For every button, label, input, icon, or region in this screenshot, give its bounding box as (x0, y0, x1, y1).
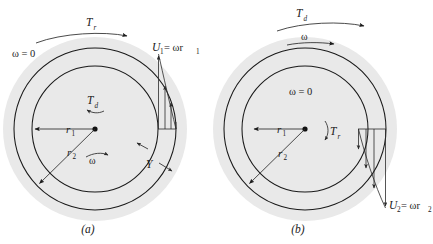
panel-a-r2-sub: 2 (73, 153, 77, 161)
figure-canvas: ω = 0 T r T d r 1 r 2 ω Y U 1 = ωr 1 (a) (0, 0, 433, 244)
panel-b-drag-torque-sub: d (304, 15, 308, 23)
panel-b-omega-zero-label: ω = 0 (289, 86, 312, 97)
viscometer-figure: ω = 0 T r T d r 1 r 2 ω Y U 1 = ωr 1 (a) (0, 0, 433, 244)
panel-a-omega-zero-label: ω = 0 (12, 48, 35, 59)
panel-b-omega-top-label: ω (301, 31, 308, 42)
panel-a-applied-torque-sub: r (94, 24, 97, 32)
panel-b-caption: (b) (291, 223, 305, 236)
panel-a-caption: (a) (81, 223, 95, 236)
panel-a-r1-sub: 1 (72, 130, 76, 138)
panel-b-r1-sub: 1 (283, 130, 287, 138)
panel-a-r1-label: r (66, 123, 71, 135)
panel-a-velocity-label-eq: = ωr (164, 42, 183, 53)
panel-b-r2-sub: 2 (284, 154, 288, 162)
panel-b-r2-label: r (278, 147, 283, 159)
panel-a-velocity-label-eq-sub: 1 (196, 48, 200, 56)
panel-b-velocity-label-eq-sub: 2 (428, 206, 432, 214)
panel-b-velocity-label-eq: = ωr (401, 200, 420, 211)
panel-b-r1-label: r (277, 123, 282, 135)
panel-a-drag-torque-sub: d (95, 102, 99, 110)
panel-a-omega-label: ω (89, 155, 96, 166)
panel-a-r2-label: r (67, 146, 72, 158)
panel-b-applied-torque-sub: r (338, 133, 341, 141)
